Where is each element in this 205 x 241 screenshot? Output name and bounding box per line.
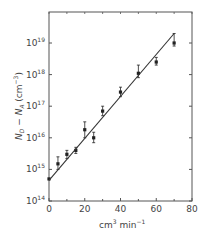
chart: 020406080101410151016101710181019 cm3 mi… (0, 0, 205, 241)
x-tick-label: 60 (151, 204, 163, 214)
axis-ticks: 020406080101410151016101710181019 (26, 12, 198, 214)
data-point (101, 106, 104, 116)
x-tick-label: 40 (115, 204, 127, 214)
x-axis-label: cm3 min−1 (99, 218, 145, 230)
plot-frame (49, 12, 192, 201)
svg-text:ND − NA (cm−3): ND − NA (cm−3) (12, 72, 25, 140)
x-tick-label: 80 (186, 204, 198, 214)
y-axis-label: ND − NA (cm−3) (12, 72, 25, 140)
data-point (56, 157, 59, 170)
y-tick-label: 1019 (26, 36, 45, 48)
svg-text:cm3 min−1: cm3 min−1 (99, 218, 145, 230)
y-tick-label: 1014 (26, 194, 45, 206)
y-tick-label: 1018 (26, 68, 45, 80)
data-point (83, 122, 86, 138)
y-tick-label: 1017 (26, 99, 45, 111)
data-point (155, 57, 158, 65)
fit-line (49, 33, 174, 180)
x-tick-label: 20 (79, 204, 91, 214)
x-tick-label: 0 (46, 204, 52, 214)
y-tick-label: 1016 (26, 131, 45, 143)
y-tick-label: 1015 (26, 162, 45, 174)
data-point (92, 132, 95, 142)
